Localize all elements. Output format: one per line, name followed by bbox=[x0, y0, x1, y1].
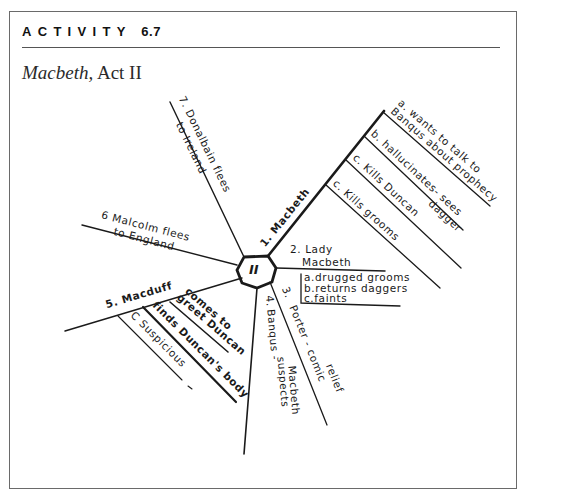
hub-label: II bbox=[249, 262, 259, 277]
branch-5c-tail bbox=[188, 386, 192, 389]
branch-4-text3: Macbeth bbox=[286, 365, 302, 415]
branch-4-line bbox=[244, 288, 257, 454]
branch-1-label: 1. Macbeth bbox=[257, 185, 312, 248]
branch-2-label: 2. Lady bbox=[290, 243, 333, 255]
branch-5c-text: C Suspicious bbox=[129, 309, 189, 369]
branch-2-label2: Macbeth bbox=[302, 256, 351, 268]
branch-4-text: Banqus - bbox=[265, 309, 281, 361]
spider-diagram: II 7. Donalbain flees to Ireland 6 Malco… bbox=[0, 0, 574, 504]
branch-3-label: 3. bbox=[280, 285, 295, 300]
branch-1-line bbox=[268, 111, 384, 256]
branch-5a-text2: greet Duncan bbox=[175, 291, 249, 357]
branch-4-label: 4. bbox=[264, 295, 277, 307]
branch-2c-text: c.faints bbox=[304, 292, 347, 304]
